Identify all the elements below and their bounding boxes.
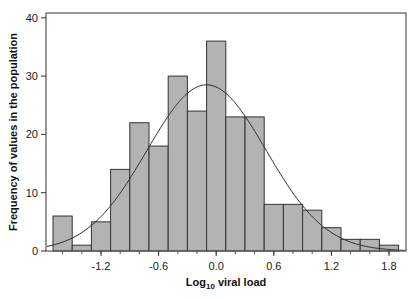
x-tick-label: -1.2 bbox=[92, 260, 111, 272]
histogram-chart: 010203040 -1.2-0.60.00.61.21.8 Frequency… bbox=[0, 0, 414, 299]
histogram-bar bbox=[91, 222, 110, 251]
histogram-bar bbox=[53, 216, 72, 251]
y-tick-label: 20 bbox=[26, 128, 38, 140]
histogram-bar bbox=[245, 117, 264, 251]
histogram-bar bbox=[207, 41, 226, 251]
y-tick-label: 30 bbox=[26, 70, 38, 82]
y-tick-label: 0 bbox=[32, 245, 38, 257]
histogram-bar bbox=[283, 204, 302, 251]
x-tick-label: 1.2 bbox=[324, 260, 339, 272]
histogram-bar bbox=[187, 111, 206, 251]
histogram-bar bbox=[149, 146, 168, 251]
y-tick-label: 40 bbox=[26, 12, 38, 24]
histogram-bar bbox=[322, 228, 341, 251]
x-tick-label: 0.0 bbox=[209, 260, 224, 272]
histogram-bar bbox=[168, 76, 187, 251]
y-axis: 010203040 bbox=[26, 12, 46, 257]
y-axis-title: Frequency of values in the population bbox=[7, 33, 19, 231]
histogram-bars bbox=[53, 41, 399, 251]
histogram-bar bbox=[111, 169, 130, 251]
x-tick-label: -0.6 bbox=[149, 260, 168, 272]
histogram-bar bbox=[341, 239, 360, 251]
x-axis-title: Log10 viral load bbox=[186, 276, 266, 291]
x-tick-label: 0.6 bbox=[266, 260, 281, 272]
x-axis: -1.2-0.60.00.61.21.8 bbox=[63, 251, 397, 272]
histogram-bar bbox=[360, 239, 379, 251]
x-tick-label: 1.8 bbox=[381, 260, 396, 272]
histogram-bar bbox=[72, 245, 91, 251]
histogram-bar bbox=[264, 204, 283, 251]
y-tick-label: 10 bbox=[26, 187, 38, 199]
histogram-bar bbox=[130, 123, 149, 251]
histogram-bar bbox=[226, 117, 245, 251]
